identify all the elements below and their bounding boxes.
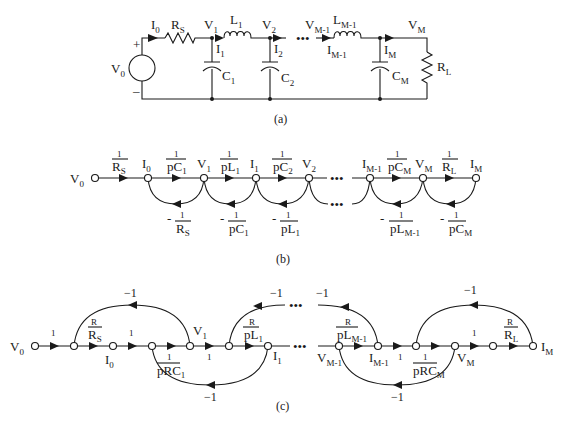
node-c-IM <box>530 343 537 350</box>
svg-text:1: 1 <box>286 210 291 220</box>
node-c-11 <box>490 343 497 350</box>
gain-neg1-c: −1 <box>316 286 329 300</box>
label-L1: L1 <box>230 12 242 30</box>
svg-text:R: R <box>345 317 351 327</box>
svg-text:1: 1 <box>447 149 452 159</box>
gain-neg1-a: −1 <box>124 286 137 300</box>
node-I0 <box>145 175 152 182</box>
panel-a-circuit: + – V0 I0 RS V1 I1 C1 L1 V2 I2 C2 ••• VM… <box>111 12 451 126</box>
label-b-IM-1: IM-1 <box>362 156 382 174</box>
node-V1 <box>201 175 208 182</box>
label-c-V1: V1 <box>193 323 207 341</box>
caption-a: (a) <box>274 112 287 126</box>
svg-text:1: 1 <box>174 149 179 159</box>
node-c-IM-1 <box>375 343 382 350</box>
node-IM <box>473 175 480 182</box>
svg-text:-: - <box>272 211 276 226</box>
gain-R-over-pLM-1: R pLM-1 <box>336 317 367 344</box>
panel-c-signal-flow-graph: ••• ••• −1 −1 −1 −1 −1 −1 <box>10 283 553 413</box>
label-b-V2: V2 <box>302 156 316 174</box>
svg-text:1: 1 <box>180 210 185 220</box>
gain-R-over-pL1: R pL1 <box>243 317 263 344</box>
gain-neg-1-over-pCM: - 1 pCM <box>440 210 472 238</box>
svg-text:1: 1 <box>395 149 400 159</box>
label-c-IM-1: IM-1 <box>369 350 389 368</box>
svg-text:pLM-1: pLM-1 <box>337 327 367 344</box>
plus-sign: + <box>133 37 140 52</box>
label-C1: C1 <box>222 68 235 86</box>
label-I0: I0 <box>151 17 160 35</box>
current-arrow-icon <box>148 34 158 42</box>
gain-neg1-e: −1 <box>204 390 217 404</box>
svg-text:R: R <box>507 317 513 327</box>
label-c-IM: IM <box>541 339 553 357</box>
node-IM-1 <box>367 175 374 182</box>
label-b-IM: IM <box>470 156 482 174</box>
node-c-VM <box>452 343 459 350</box>
gain-neg-1-over-pLM-1: - 1 pLM-1 <box>380 210 420 238</box>
gain-1-over-RL: 1 RL <box>442 149 458 176</box>
gain-1-over-pC2: 1 pC2 <box>272 149 293 176</box>
ladder-network-figure: + – V0 I0 RS V1 I1 C1 L1 V2 I2 C2 ••• VM… <box>0 0 564 423</box>
svg-text:-: - <box>380 211 384 226</box>
resistor-RL-icon <box>422 52 432 99</box>
svg-text:pCM: pCM <box>449 221 472 238</box>
node-c-V1 <box>187 343 194 350</box>
svg-text:RS: RS <box>176 221 190 238</box>
gain-1-over-pRCM: 1 pRCM <box>413 352 445 380</box>
svg-text:1: 1 <box>423 352 428 362</box>
svg-text:pLM-1: pLM-1 <box>390 221 420 238</box>
label-V0: V0 <box>111 61 125 79</box>
label-b-VM: VM <box>415 156 432 174</box>
ellipsis-bottom: ••• <box>330 197 344 212</box>
gain-1-over-pCM: 1 pCM <box>387 149 411 176</box>
label-V2: V2 <box>262 17 276 35</box>
svg-text:R: R <box>91 317 97 327</box>
node-c-I0 <box>110 343 117 350</box>
svg-text:-: - <box>440 211 444 226</box>
svg-text:1: 1 <box>167 352 172 362</box>
label-IM-1: IM-1 <box>327 42 347 60</box>
svg-text:pC2: pC2 <box>273 159 293 176</box>
gain-neg1-d: −1 <box>464 283 477 297</box>
svg-text:pL1: pL1 <box>281 221 300 238</box>
ellipsis-top: ••• <box>330 171 344 186</box>
svg-text:-: - <box>220 211 224 226</box>
svg-text:-: - <box>167 211 171 226</box>
svg-text:1: 1 <box>399 210 404 220</box>
voltage-source-icon <box>129 55 155 81</box>
label-c-VM: VM <box>457 350 474 368</box>
svg-text:pCM: pCM <box>388 159 411 176</box>
label-b-I0: I0 <box>142 156 151 174</box>
svg-text:pL1: pL1 <box>244 327 263 344</box>
gain-1-over-pL1: 1 pL1 <box>220 149 240 176</box>
node-I1 <box>253 175 260 182</box>
gain-neg1-f: −1 <box>391 390 404 404</box>
node-V0 <box>92 175 99 182</box>
node-c-I1 <box>265 343 272 350</box>
svg-text:pC1: pC1 <box>229 221 249 238</box>
svg-text:pRC1: pRC1 <box>157 363 185 380</box>
node-c-3 <box>149 343 156 350</box>
gain-1-over-Rs: 1 RS <box>112 149 128 176</box>
svg-text:RS: RS <box>88 327 102 344</box>
inductor-LM-1-icon <box>334 32 380 39</box>
label-c-V0: V0 <box>10 339 24 357</box>
label-b-I1: I1 <box>250 156 259 174</box>
svg-text:pRCM: pRCM <box>413 363 445 380</box>
svg-text:1: 1 <box>234 210 239 220</box>
svg-text:pL1: pL1 <box>221 159 240 176</box>
label-C2: C2 <box>281 70 294 88</box>
gain-R-over-Rs: R RS <box>88 317 102 344</box>
gain-1-c: 1 <box>207 352 212 362</box>
node-c-V0 <box>32 343 39 350</box>
gain-neg-1-over-Rs: - 1 RS <box>167 210 191 238</box>
resistor-Rs-icon <box>165 33 212 43</box>
ellipsis: ••• <box>296 31 310 46</box>
node-c-VM-1 <box>336 343 343 350</box>
label-I1: I1 <box>216 41 225 59</box>
label-LM-1: LM-1 <box>333 12 356 30</box>
label-c-I0: I0 <box>105 352 114 370</box>
label-c-I1: I1 <box>273 348 282 366</box>
label-I2: I2 <box>274 41 283 59</box>
